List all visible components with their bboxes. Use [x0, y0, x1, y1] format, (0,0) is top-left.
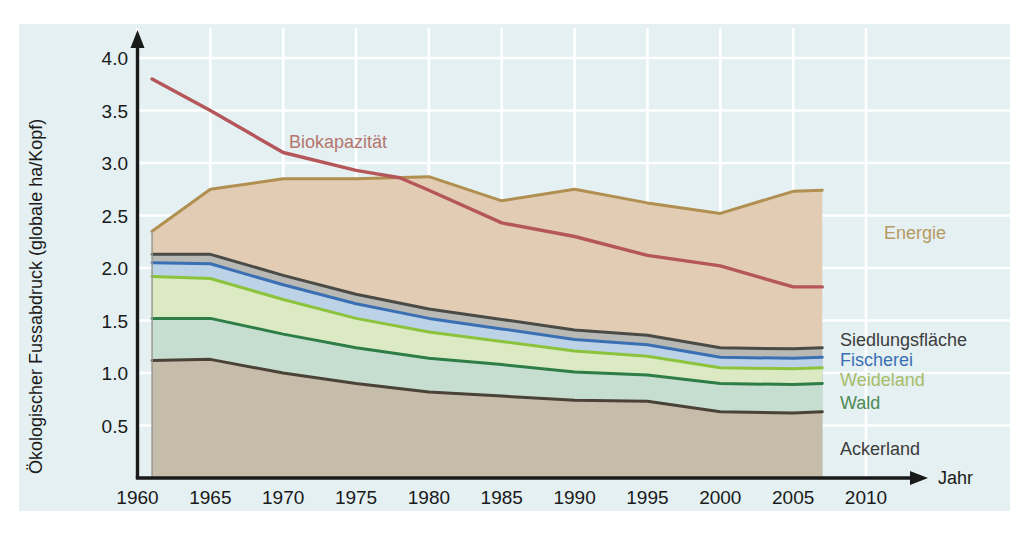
- x-tick-label: 1980: [408, 487, 450, 508]
- series-label-fischerei: Fischerei: [840, 350, 913, 370]
- x-tick-label: 1990: [553, 487, 595, 508]
- x-axis-title: Jahr: [938, 468, 973, 488]
- series-label-wald: Wald: [840, 393, 880, 413]
- y-tick-label: 2.5: [102, 206, 128, 227]
- y-tick-label: 0.5: [102, 416, 128, 437]
- series-label-weideland: Weideland: [840, 370, 925, 390]
- x-axis-arrow: [910, 471, 928, 485]
- x-tick-label: 1975: [335, 487, 377, 508]
- y-tick-label: 4.0: [102, 48, 128, 69]
- ecological-footprint-chart: 0.51.01.52.02.53.03.54.01960196519701975…: [0, 0, 1029, 536]
- y-tick-label: 3.5: [102, 101, 128, 122]
- y-tick-label: 1.5: [102, 311, 128, 332]
- y-axis-arrow: [131, 30, 145, 48]
- series-label-biokapazitaet: Biokapazität: [289, 132, 387, 152]
- x-tick-label: 2000: [699, 487, 741, 508]
- x-tick-label: 2010: [845, 487, 887, 508]
- y-tick-label: 2.0: [102, 258, 128, 279]
- y-axis-title: Ökologischer Fussabdruck (globale ha/Kop…: [26, 119, 46, 474]
- x-tick-label: 1995: [626, 487, 668, 508]
- y-tick-labels: 0.51.01.52.02.53.03.54.0: [102, 48, 128, 437]
- figure-root: 0.51.01.52.02.53.03.54.01960196519701975…: [0, 0, 1029, 536]
- x-tick-label: 1970: [262, 487, 304, 508]
- series-label-siedlungsflaeche: Siedlungsfläche: [840, 330, 967, 350]
- y-tick-label: 3.0: [102, 153, 128, 174]
- x-tick-labels: 1960196519701975198019851990199520002005…: [116, 487, 887, 508]
- x-tick-label: 1985: [481, 487, 523, 508]
- x-tick-label: 1965: [189, 487, 231, 508]
- x-tick-label: 1960: [116, 487, 158, 508]
- y-tick-label: 1.0: [102, 363, 128, 384]
- x-tick-label: 2005: [772, 487, 814, 508]
- series-label-ackerland: Ackerland: [840, 439, 920, 459]
- series-label-energie: Energie: [884, 223, 946, 243]
